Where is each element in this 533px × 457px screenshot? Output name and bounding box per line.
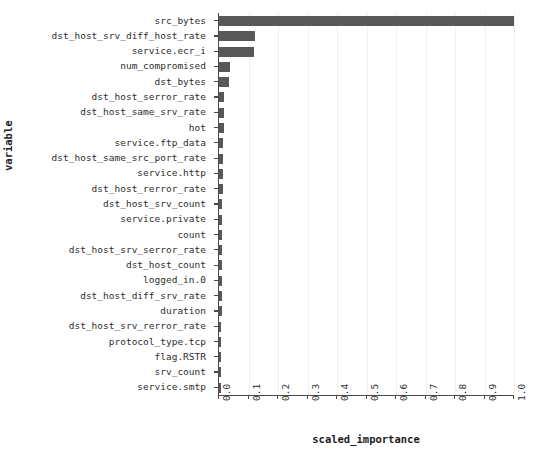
y-tick-label: count	[177, 230, 206, 240]
y-tick-label: dst_host_srv_diff_host_rate	[52, 31, 206, 41]
y-tick-label: dst_host_serror_rate	[92, 92, 206, 102]
variable-importance-chart: src_bytesdst_host_srv_diff_host_rateserv…	[0, 0, 533, 457]
bar	[219, 337, 221, 347]
x-tick-label: 0.6	[399, 384, 409, 401]
bar-row	[219, 257, 514, 273]
y-tick-label: num_compromised	[120, 61, 206, 71]
bar	[219, 306, 222, 316]
y-tick-label: src_bytes	[155, 16, 206, 26]
plot-area	[218, 13, 514, 396]
y-tick-label: service.smtp	[137, 382, 206, 392]
bar-row	[219, 151, 514, 167]
bar	[219, 169, 223, 179]
x-tick-label: 0.2	[281, 384, 291, 401]
y-tick-label: dst_host_same_srv_rate	[80, 107, 206, 117]
y-tick-label: dst_host_same_src_port_rate	[52, 153, 206, 163]
bar-row	[219, 166, 514, 182]
bar	[219, 199, 222, 209]
bar-row	[219, 13, 514, 29]
y-tick-label: dst_host_rerror_rate	[92, 184, 206, 194]
y-tick-label: dst_host_diff_srv_rate	[80, 291, 206, 301]
y-tick-label: dst_host_srv_rerror_rate	[69, 321, 206, 331]
y-tick-label: service.ftp_data	[114, 138, 206, 148]
gridline	[514, 13, 515, 395]
x-tick-mark	[454, 395, 455, 399]
bar-row	[219, 212, 514, 228]
bar-row	[219, 59, 514, 75]
bar-row	[219, 242, 514, 258]
bar-row	[219, 273, 514, 289]
x-tick-label: 0.9	[488, 384, 498, 401]
bar-row	[219, 349, 514, 365]
bar-row	[219, 181, 514, 197]
bar	[219, 77, 229, 87]
y-tick-label: flag.RSTR	[155, 352, 206, 362]
bar-row	[219, 196, 514, 212]
bar-row	[219, 288, 514, 304]
bar	[219, 16, 514, 26]
bar	[219, 62, 230, 72]
bar	[219, 352, 221, 362]
bar-row	[219, 74, 514, 90]
x-tick-label: 0.0	[222, 384, 232, 401]
x-tick-mark	[336, 395, 337, 399]
bar	[219, 245, 222, 255]
x-tick-label: 1.0	[517, 384, 527, 401]
x-tick-mark	[395, 395, 396, 399]
y-tick-label: duration	[160, 306, 206, 316]
x-tick-label: 0.8	[458, 384, 468, 401]
x-tick-label: 0.1	[252, 384, 262, 401]
y-tick-label: dst_host_count	[126, 260, 206, 270]
bar-row	[219, 364, 514, 380]
x-tick-mark	[277, 395, 278, 399]
bar-row	[219, 227, 514, 243]
y-tick-label: service.http	[137, 168, 206, 178]
bar-row	[219, 89, 514, 105]
bar-row	[219, 135, 514, 151]
bar-row	[219, 380, 514, 396]
bar	[219, 260, 222, 270]
y-tick-label: hot	[189, 123, 206, 133]
x-tick-mark	[513, 395, 514, 399]
bar-row	[219, 334, 514, 350]
bar	[219, 123, 224, 133]
y-tick-label: protocol_type.tcp	[109, 337, 206, 347]
x-tick-mark	[218, 395, 219, 399]
x-axis-title: scaled_importance	[218, 433, 514, 445]
y-axis-title: variable	[2, 120, 14, 171]
bar	[219, 230, 222, 240]
y-tick-label: service.private	[120, 214, 206, 224]
bar	[219, 322, 221, 332]
x-tick-label: 0.3	[311, 384, 321, 401]
y-axis-tick-labels: src_bytesdst_host_srv_diff_host_rateserv…	[0, 13, 214, 395]
bar	[219, 47, 254, 57]
bar	[219, 276, 222, 286]
y-tick-label: dst_bytes	[155, 77, 206, 87]
bar-row	[219, 120, 514, 136]
x-tick-mark	[248, 395, 249, 399]
y-tick-label: service.ecr_i	[132, 46, 206, 56]
bar	[219, 367, 221, 377]
x-tick-label: 0.7	[429, 384, 439, 401]
x-tick-label: 0.4	[340, 384, 350, 401]
chart-title	[0, 0, 533, 2]
bar-row	[219, 44, 514, 60]
x-tick-mark	[425, 395, 426, 399]
x-axis-tick-labels: 0.00.10.20.30.40.50.60.70.80.91.0	[218, 395, 514, 405]
bar-series	[219, 13, 514, 395]
bar	[219, 108, 224, 118]
bar-row	[219, 105, 514, 121]
bar	[219, 31, 255, 41]
x-tick-mark	[484, 395, 485, 399]
x-tick-mark	[366, 395, 367, 399]
bar	[219, 291, 222, 301]
bar	[219, 92, 224, 102]
bar-row	[219, 303, 514, 319]
y-tick-label: logged_in.0	[143, 275, 206, 285]
y-tick-label: srv_count	[155, 367, 206, 377]
x-tick-label: 0.5	[370, 384, 380, 401]
bar	[219, 215, 222, 225]
bar	[219, 154, 223, 164]
bar	[219, 138, 223, 148]
bar-row	[219, 28, 514, 44]
